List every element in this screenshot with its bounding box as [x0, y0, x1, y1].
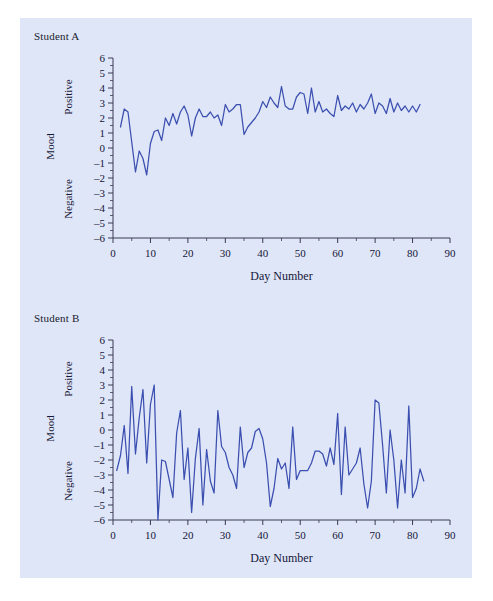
figure-panel: Student A 6543210–1–2–3–4–5–601020304050… [20, 18, 472, 578]
y-axis-title: Mood [44, 415, 56, 442]
x-tick-label: 0 [110, 529, 116, 541]
y-tick-label: 0 [100, 424, 106, 436]
y-tick-label: 5 [100, 67, 106, 79]
x-axis-title: Day Number [250, 269, 312, 283]
y-tick-label: 4 [100, 82, 106, 94]
chart-a-plot: 6543210–1–2–3–4–5–60102030405060708090Da… [20, 18, 472, 296]
x-tick-label: 30 [220, 247, 232, 259]
x-tick-label: 80 [407, 529, 419, 541]
y-tick-label: 6 [100, 334, 106, 346]
y-tick-label: –3 [93, 187, 106, 199]
x-tick-label: 90 [445, 529, 457, 541]
y-tick-label: –2 [93, 454, 105, 466]
y-tick-label: 1 [100, 127, 106, 139]
x-tick-label: 50 [295, 529, 307, 541]
y-tick-label: –5 [93, 499, 106, 511]
x-tick-label: 60 [332, 529, 344, 541]
y-tick-label: –6 [93, 232, 106, 244]
y-axis-positive-label: Positive [62, 361, 74, 397]
chart-b-plot: 6543210–1–2–3–4–5–60102030405060708090Da… [20, 300, 472, 578]
y-axis-title: Mood [44, 133, 56, 160]
x-tick-label: 70 [370, 529, 382, 541]
y-tick-label: 1 [100, 409, 106, 421]
y-tick-label: 0 [100, 142, 106, 154]
y-tick-label: 6 [100, 52, 106, 64]
y-tick-label: 2 [100, 112, 106, 124]
x-tick-label: 10 [145, 529, 157, 541]
y-tick-label: –6 [93, 514, 106, 526]
y-tick-label: –1 [93, 439, 105, 451]
x-tick-label: 60 [332, 247, 344, 259]
x-axis-title: Day Number [250, 551, 312, 565]
y-tick-label: 4 [100, 364, 106, 376]
x-tick-label: 20 [182, 247, 194, 259]
y-tick-label: –5 [93, 217, 106, 229]
x-tick-label: 30 [220, 529, 232, 541]
x-tick-label: 40 [257, 529, 269, 541]
x-tick-label: 50 [295, 247, 307, 259]
y-tick-label: 5 [100, 349, 106, 361]
x-tick-label: 80 [407, 247, 419, 259]
y-tick-label: 2 [100, 394, 106, 406]
y-tick-label: –4 [93, 484, 106, 496]
chart-student-b: Student B 6543210–1–2–3–4–5–601020304050… [20, 300, 472, 578]
y-tick-label: –1 [93, 157, 105, 169]
y-tick-label: 3 [100, 379, 106, 391]
x-tick-label: 0 [110, 247, 116, 259]
x-tick-label: 40 [257, 247, 269, 259]
x-tick-label: 10 [145, 247, 157, 259]
y-axis-negative-label: Negative [62, 461, 74, 501]
y-axis-negative-label: Negative [62, 179, 74, 219]
x-tick-label: 70 [370, 247, 382, 259]
y-axis-positive-label: Positive [62, 79, 74, 115]
y-tick-label: –3 [93, 469, 106, 481]
chart-student-a: Student A 6543210–1–2–3–4–5–601020304050… [20, 18, 472, 296]
y-tick-label: 3 [100, 97, 106, 109]
y-tick-label: –4 [93, 202, 106, 214]
x-tick-label: 20 [182, 529, 194, 541]
series-line [120, 87, 420, 176]
y-tick-label: –2 [93, 172, 105, 184]
x-tick-label: 90 [445, 247, 457, 259]
series-line [117, 385, 424, 520]
